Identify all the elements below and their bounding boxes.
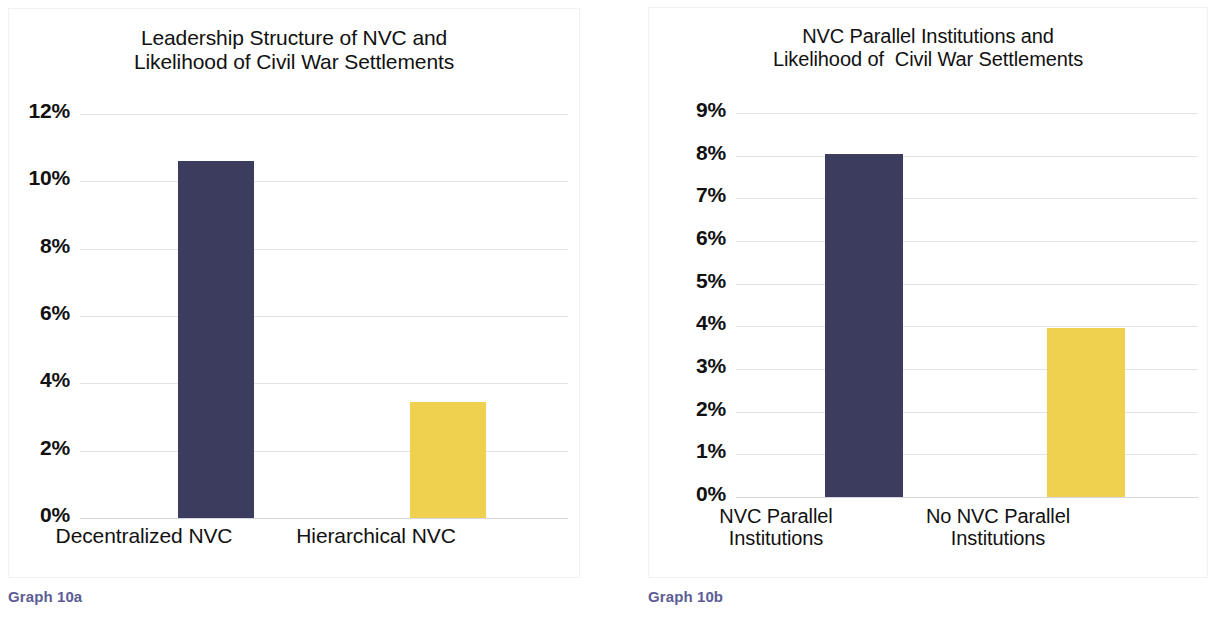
y-axis-tick-label: 9% xyxy=(664,98,726,122)
x-axis-category-label: NVC Parallel Institutions xyxy=(671,505,881,550)
gridline xyxy=(80,383,568,384)
figure-pair-graphs-10a-10b: Leadership Structure of NVC andLikelihoo… xyxy=(0,0,1217,621)
chart-title-a: Leadership Structure of NVC andLikelihoo… xyxy=(8,26,580,73)
chart-title-a-line2: Likelihood of Civil War Settlements xyxy=(134,50,454,73)
y-axis-tick-label: 8% xyxy=(664,141,726,165)
gridline xyxy=(736,113,1198,114)
bar[interactable] xyxy=(178,161,254,518)
y-axis-tick-label: 12% xyxy=(4,99,70,123)
chart-title-b: NVC Parallel Institutions andLikelihood … xyxy=(648,25,1208,70)
gridline xyxy=(80,249,568,250)
chart-title-a-line1: Leadership Structure of NVC and xyxy=(141,26,447,49)
y-axis-tick-label: 0% xyxy=(664,482,726,506)
gridline xyxy=(736,284,1198,285)
y-axis-tick-label: 7% xyxy=(664,183,726,207)
y-axis-tick-label: 10% xyxy=(4,166,70,190)
x-axis-category-label: No NVC Parallel Institutions xyxy=(893,505,1103,550)
plot-area-a: 12%10%8%6%4%2%0% xyxy=(80,114,568,518)
gridline xyxy=(80,451,568,452)
gridline xyxy=(80,316,568,317)
y-axis-tick-label: 6% xyxy=(4,301,70,325)
y-axis-tick-label: 2% xyxy=(4,436,70,460)
chart-title-b-line1: NVC Parallel Institutions and xyxy=(802,25,1054,47)
gridline xyxy=(80,518,568,519)
gridline xyxy=(736,497,1198,498)
x-axis-category-label: Decentralized NVC xyxy=(29,524,259,548)
y-axis-tick-label: 6% xyxy=(664,226,726,250)
y-axis-tick-label: 3% xyxy=(664,354,726,378)
y-axis-tick-label: 8% xyxy=(4,234,70,258)
chart-title-b-line2: Likelihood of Civil War Settlements xyxy=(773,48,1083,70)
chart-panel-graph-10a: Leadership Structure of NVC andLikelihoo… xyxy=(8,8,580,578)
x-axis-category-label: Hierarchical NVC xyxy=(261,524,491,548)
gridline xyxy=(736,241,1198,242)
gridline xyxy=(736,198,1198,199)
bar[interactable] xyxy=(410,402,486,518)
gridline xyxy=(736,369,1198,370)
gridline xyxy=(736,326,1198,327)
gridline xyxy=(736,156,1198,157)
y-axis-tick-label: 1% xyxy=(664,439,726,463)
bar[interactable] xyxy=(1047,328,1125,497)
caption-graph-10a: Graph 10a xyxy=(8,588,82,605)
gridline xyxy=(80,114,568,115)
caption-graph-10b: Graph 10b xyxy=(648,588,723,605)
y-axis-tick-label: 2% xyxy=(664,397,726,421)
y-axis-tick-label: 4% xyxy=(4,368,70,392)
plot-area-b: 9%8%7%6%5%4%3%2%1%0% xyxy=(736,113,1198,497)
y-axis-tick-label: 4% xyxy=(664,311,726,335)
bar[interactable] xyxy=(825,154,903,497)
gridline xyxy=(736,454,1198,455)
y-axis-tick-label: 5% xyxy=(664,269,726,293)
gridline xyxy=(736,412,1198,413)
chart-panel-graph-10b: NVC Parallel Institutions andLikelihood … xyxy=(648,7,1208,578)
gridline xyxy=(80,181,568,182)
